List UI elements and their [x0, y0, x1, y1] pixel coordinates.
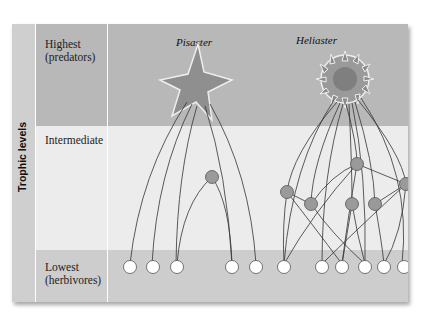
food-web-network	[12, 24, 408, 302]
feeding-links	[130, 98, 406, 264]
intermediate-nodes	[206, 158, 409, 211]
food-web-diagram: Trophic levels Highest (predators) Inter…	[12, 24, 408, 302]
heliaster-sunstar-icon	[316, 51, 374, 108]
herbivore-nodes	[124, 261, 409, 274]
